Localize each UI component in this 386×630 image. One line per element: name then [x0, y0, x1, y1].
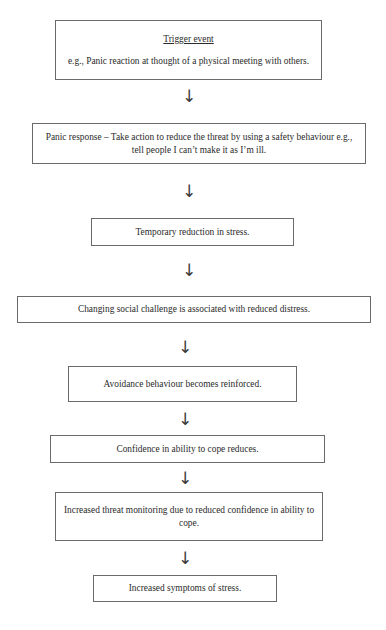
flow-node-changing-social-challenge: Changing social challenge is associated … — [17, 296, 371, 323]
down-arrow-icon: ↓ — [179, 262, 199, 279]
flow-node-text: Confidence in ability to cope reduces. — [116, 443, 258, 456]
flow-node-increased-symptoms: Increased symptoms of stress. — [93, 575, 277, 602]
flow-node-avoidance-reinforced: Avoidance behaviour becomes reinforced. — [68, 366, 297, 402]
down-arrow-icon: ↓ — [175, 339, 195, 356]
flow-node-text: Panic response – Take action to reduce t… — [39, 131, 359, 156]
flow-node-text: Increased symptoms of stress. — [129, 582, 241, 595]
flow-node-text: Increased threat monitoring due to reduc… — [62, 504, 316, 529]
flow-node-title: Trigger event — [163, 33, 213, 46]
down-arrow-icon: ↓ — [175, 550, 195, 567]
flow-node-trigger-event: Trigger evente.g., Panic reaction at tho… — [55, 20, 322, 80]
flow-node-panic-response: Panic response – Take action to reduce t… — [32, 123, 366, 164]
down-arrow-icon: ↓ — [175, 411, 195, 428]
flow-node-text: Avoidance behaviour becomes reinforced. — [103, 378, 261, 391]
down-arrow-icon: ↓ — [175, 470, 195, 487]
flow-node-temporary-reduction: Temporary reduction in stress. — [91, 218, 294, 246]
flowchart-diagram: Trigger evente.g., Panic reaction at tho… — [0, 0, 386, 630]
flow-node-text: Changing social challenge is associated … — [78, 303, 310, 316]
flow-node-text: Temporary reduction in stress. — [136, 226, 250, 239]
flow-node-text: e.g., Panic reaction at thought of a phy… — [68, 55, 309, 68]
down-arrow-icon: ↓ — [179, 88, 199, 105]
flow-node-confidence-reduces: Confidence in ability to cope reduces. — [50, 435, 325, 463]
flow-node-increased-threat-monitoring: Increased threat monitoring due to reduc… — [55, 492, 323, 541]
down-arrow-icon: ↓ — [179, 183, 199, 200]
